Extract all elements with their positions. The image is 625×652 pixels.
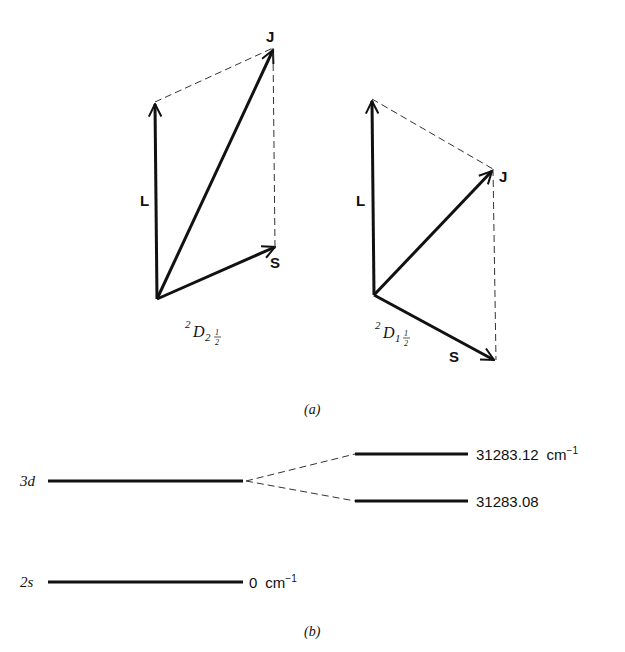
l-vector-arrow: [372, 101, 374, 295]
state-label-d-five-halves: 2 D 2 1 2: [185, 318, 221, 347]
level-2s-value: 0cm−1: [249, 573, 297, 591]
split-connector-upper: [246, 454, 355, 481]
caption-a: (a): [304, 402, 321, 418]
svg-text:1: 1: [404, 329, 408, 338]
svg-text:2: 2: [185, 318, 191, 330]
svg-text:1: 1: [215, 328, 219, 337]
energy-level-diagram: 3d 31283.12cm−1 31283.08 2s 0cm−1: [19, 445, 578, 591]
svg-text:2: 2: [215, 338, 219, 347]
l-label: L: [140, 192, 149, 209]
caption-b: (b): [304, 624, 321, 640]
svg-text:2: 2: [375, 319, 381, 331]
parallelogram-dashed-edge: [155, 48, 273, 102]
svg-text:2: 2: [205, 331, 211, 343]
left-vector-diagram: L S J 2 D 2 1 2: [140, 28, 280, 347]
state-label-d-three-halves: 2 D 1 1 2: [375, 319, 410, 348]
level-split-low-value: 31283.08: [476, 493, 539, 510]
l-vector-arrow: [155, 104, 157, 299]
level-2s-label: 2s: [20, 574, 34, 590]
level-3d-label: 3d: [19, 473, 36, 489]
j-label: J: [499, 168, 507, 185]
svg-text:1: 1: [395, 332, 401, 344]
parallelogram-dashed-edge: [372, 99, 493, 169]
parallelogram-dashed-edge: [493, 169, 496, 360]
right-vector-diagram: L S J 2 D 1 1 2: [356, 99, 507, 365]
s-vector-arrow: [157, 247, 275, 299]
svg-text:D: D: [382, 324, 395, 341]
j-label: J: [266, 28, 274, 45]
svg-text:2: 2: [404, 339, 408, 348]
l-label: L: [356, 192, 365, 209]
j-vector-arrow: [374, 171, 492, 295]
vector-coupling-diagram: L S J 2 D 2 1 2 L S J 2 D 1 1 2 (a): [0, 0, 625, 652]
level-split-high-value: 31283.12cm−1: [476, 445, 578, 463]
split-connector-lower: [246, 481, 355, 501]
svg-text:D: D: [192, 323, 205, 340]
parallelogram-dashed-edge: [273, 48, 275, 247]
s-label: S: [270, 254, 280, 271]
j-vector-arrow: [157, 50, 273, 299]
s-label: S: [449, 348, 459, 365]
